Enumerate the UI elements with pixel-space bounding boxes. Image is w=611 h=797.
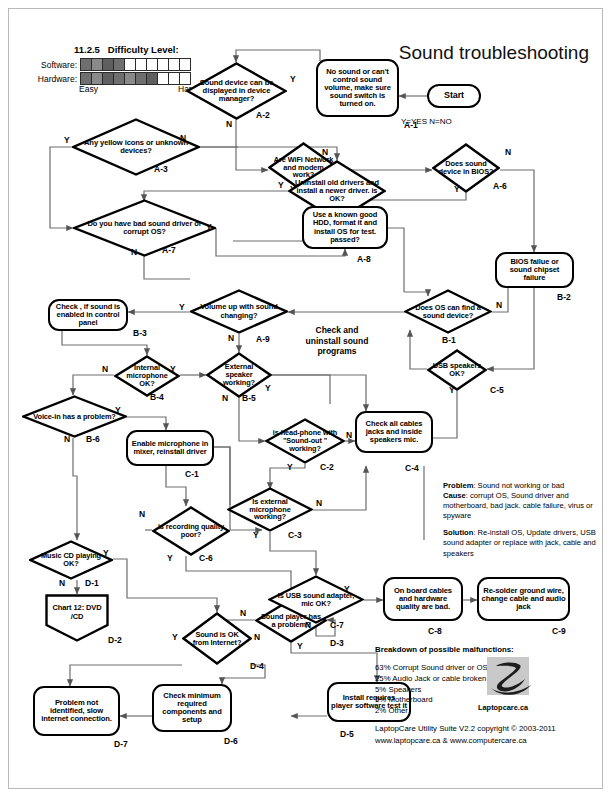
software-difficulty-cell	[169, 59, 180, 70]
node-a2-id: A-2	[256, 110, 270, 120]
node-b1[interactable]: Does OS can find a sound device?	[404, 289, 492, 334]
node-c7-label: Is USB sound adapter, mic OK?	[273, 592, 360, 608]
node-start[interactable]: Start	[427, 84, 481, 108]
node-c6[interactable]: is recording quality poor?	[152, 506, 230, 556]
software-difficulty-cell	[158, 59, 169, 70]
node-c4-label: Check all cables jacks and inside speake…	[357, 420, 431, 444]
node-b2[interactable]: BIOS failue or sound chipset failure	[495, 252, 574, 288]
node-c4[interactable]: Check all cables jacks and inside speake…	[355, 411, 433, 453]
branch-d4-yes: Y	[172, 632, 178, 642]
node-d6-label: Check minimum required components and se…	[154, 692, 230, 725]
branch-b1-no: N	[496, 300, 502, 310]
node-d7[interactable]: Problem not identified, slow internet co…	[33, 686, 120, 736]
node-d4[interactable]: Sound is OK from Internet?	[182, 612, 252, 665]
node-a8-id: A-8	[357, 254, 371, 264]
node-d1-id: D-1	[85, 578, 99, 588]
node-start-label: Start	[442, 91, 466, 101]
node-a3-label: Any yellow icons or unknown devices?	[79, 139, 193, 155]
node-b4[interactable]: Internal microphone OK?	[114, 355, 180, 397]
node-d2-label: Chart 12: DVD /CD	[46, 604, 108, 620]
solution-label: Solution	[443, 528, 473, 537]
branch-c2-yes: Y	[287, 462, 293, 472]
cause-label: Cause	[443, 491, 466, 500]
node-a7[interactable]: Do you have bad sound driver or corrupt …	[73, 199, 216, 257]
difficulty-row-hardware: Hardware:	[32, 72, 191, 85]
node-b4-id: B-4	[150, 392, 164, 402]
node-c3[interactable]: Is external microphone working?	[227, 487, 313, 532]
node-a3[interactable]: Any yellow icons or unknown devices?	[72, 118, 200, 176]
node-d3-label: Sound player has a problem?	[258, 613, 324, 629]
branch-b4-no: N	[102, 364, 108, 374]
node-a8-label: Use a known good HDD, format it and inst…	[304, 211, 386, 243]
node-d3-id: D-3	[330, 638, 344, 648]
software-difficulty-cell	[114, 59, 125, 70]
footer-copyright: LaptopCare Utility Suite V2.2 copyright …	[375, 723, 610, 735]
hardware-difficulty-cell	[169, 73, 180, 84]
node-d7-label: Problem not identified, slow internet co…	[35, 699, 118, 724]
node-a8[interactable]: Use a known good HDD, format it and inst…	[302, 206, 388, 249]
node-a9[interactable]: Volume up with sound changing?	[190, 289, 288, 334]
node-c3-id: C-3	[288, 530, 302, 540]
software-label: Software:	[32, 60, 80, 70]
branch-c2-no: N	[346, 430, 352, 440]
node-a9-label: Volume up with sound changing?	[195, 303, 283, 319]
branch-a2-yes: Y	[290, 74, 296, 84]
branch-d3-yes: Y	[297, 641, 303, 651]
node-d7-id: D-7	[114, 739, 128, 749]
hardware-difficulty-cell	[81, 73, 92, 84]
node-c6-id: C-6	[199, 553, 213, 563]
node-c9-label: Re-solder ground wire, change cable and …	[479, 587, 568, 612]
problem-line: Problem: Sound not working or bad	[443, 481, 608, 491]
node-c8[interactable]: On board cables and hardware quality are…	[383, 577, 463, 621]
cause-line: Cause: corrupt OS, Sound driver and moth…	[443, 491, 608, 521]
branch-a9-no: N	[228, 333, 234, 343]
software-difficulty-cell	[81, 59, 92, 70]
branch-c5-yes: Y	[449, 385, 455, 395]
node-d1[interactable]: Music CD playing OK?	[29, 540, 113, 580]
hardware-difficulty-cell	[147, 73, 158, 84]
difficulty-title: 11.2.5 Difficulty Level:	[74, 44, 179, 55]
node-b3[interactable]: Check , if sound is enabled in control p…	[48, 299, 128, 331]
node-d6-id: D-6	[224, 736, 238, 746]
node-c2-label: is head-phone with "Sound-out " working?	[269, 429, 342, 453]
node-c5[interactable]: USB speakers OK?	[427, 349, 487, 391]
note-check-uninstall: Check and uninstall sound programs	[303, 325, 371, 357]
node-b3-id: B-3	[133, 328, 147, 338]
problem-text: : Sound not working or bad	[473, 481, 564, 490]
node-d6[interactable]: Check minimum required components and se…	[152, 684, 232, 732]
node-a1[interactable]: No sound or can't control sound volume, …	[316, 59, 399, 117]
node-a4-label: Are WiFi Network and modem work?	[271, 156, 336, 180]
branch-b6-no: N	[64, 434, 70, 444]
node-c9[interactable]: Re-solder ground wire, change cable and …	[477, 577, 570, 621]
node-a6[interactable]: Does sound device in BIOS?	[432, 143, 500, 193]
node-d4-id: D-4	[250, 661, 264, 671]
hardware-difficulty-cell	[125, 73, 136, 84]
node-c7-id: C-7	[330, 620, 344, 630]
footer-urls: www.laptopcare.ca & www.computercare.ca	[375, 735, 610, 747]
node-b5[interactable]: External speaker working?	[206, 352, 272, 398]
node-a2[interactable]: Sound device can be displayed in device …	[186, 62, 287, 120]
branch-a3-yes: Y	[64, 135, 70, 145]
branch-d4-no: N	[254, 632, 260, 642]
branch-a7-no: N	[131, 247, 137, 257]
node-c8-id: C-8	[428, 626, 442, 636]
branch-b5-no: N	[222, 393, 228, 403]
node-b5-id: B-5	[242, 393, 256, 403]
software-difficulty-cell	[103, 59, 114, 70]
node-b6[interactable]: Voice-in has a problem?	[22, 395, 127, 438]
node-d1-label: Music CD playing OK?	[33, 552, 109, 568]
node-d2[interactable]: Chart 12: DVD /CD	[45, 594, 109, 642]
node-b1-id: B-1	[442, 335, 456, 345]
branch-a2-no: N	[226, 119, 232, 129]
problem-label: Problem	[443, 481, 473, 490]
hardware-label: Hardware:	[32, 74, 80, 84]
node-c1[interactable]: Enable microphone in mixer, reinstall dr…	[126, 430, 214, 466]
footer: LaptopCare Utility Suite V2.2 copyright …	[375, 723, 610, 746]
branch-a9-yes: Y	[179, 302, 185, 312]
node-a7-label: Do you have bad sound driver or corrupt …	[81, 220, 208, 236]
node-c2[interactable]: is head-phone with "Sound-out " working?	[265, 418, 345, 464]
software-difficulty-bar	[80, 58, 191, 71]
branch-c6-no: N	[139, 509, 145, 519]
difficulty-label: Difficulty Level:	[108, 44, 179, 55]
branch-a6-no: N	[505, 147, 511, 157]
